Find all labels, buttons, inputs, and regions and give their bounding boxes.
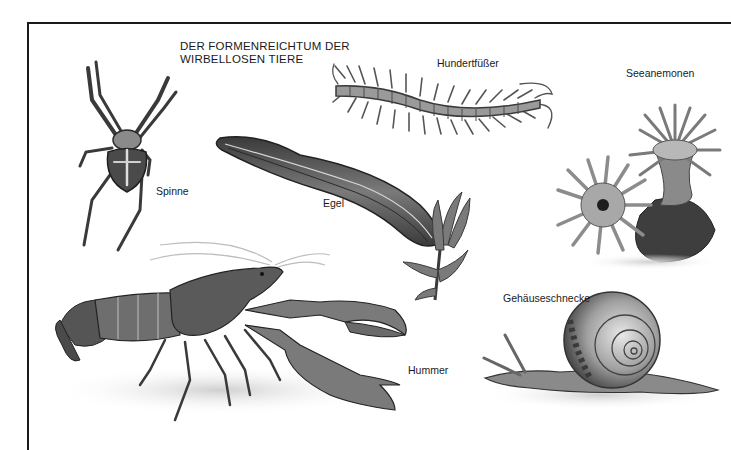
centipede-illustration xyxy=(333,64,552,134)
label-centipede: Hundertfüßer xyxy=(437,57,499,69)
spider-illustration xyxy=(80,62,176,250)
label-leech: Egel xyxy=(323,197,344,209)
label-snail: Gehäuseschnecke xyxy=(503,292,590,304)
lobster-illustration xyxy=(50,242,406,420)
label-spider: Spinne xyxy=(156,185,189,197)
label-sea-anemones: Seeanemonen xyxy=(626,67,694,79)
snail-illustration xyxy=(480,292,720,410)
label-lobster: Hummer xyxy=(408,364,448,376)
illustration-canvas xyxy=(0,0,731,450)
leech-illustration xyxy=(216,137,437,246)
sea-anemones-illustration xyxy=(558,105,720,270)
